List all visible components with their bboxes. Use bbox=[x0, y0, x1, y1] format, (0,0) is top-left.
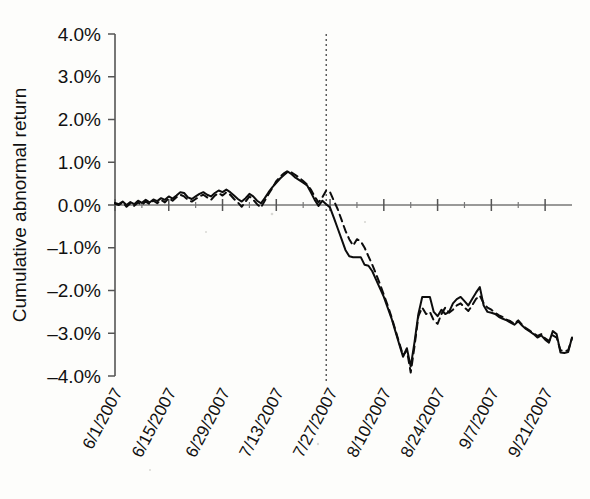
y-axis-title: Cumulative abnormal return bbox=[9, 88, 30, 322]
y-axis-tick-label: 1.0% bbox=[58, 152, 101, 173]
y-axis-tick-label: 4.0% bbox=[58, 24, 101, 45]
y-axis-tick-label: –2.0% bbox=[47, 280, 101, 301]
y-axis-tick-label: –4.0% bbox=[47, 366, 101, 387]
y-axis-tick-label: 3.0% bbox=[58, 66, 101, 87]
y-axis-tick-label: –1.0% bbox=[47, 237, 101, 258]
y-axis-tick-label: –3.0% bbox=[47, 323, 101, 344]
y-axis-tick-label: 0.0% bbox=[58, 195, 101, 216]
chart-figure: Cumulative abnormal return 4.0%3.0%2.0%1… bbox=[0, 0, 590, 499]
cumulative-abnormal-return-chart: Cumulative abnormal return 4.0%3.0%2.0%1… bbox=[0, 0, 590, 499]
y-axis-tick-label: 2.0% bbox=[58, 109, 101, 130]
